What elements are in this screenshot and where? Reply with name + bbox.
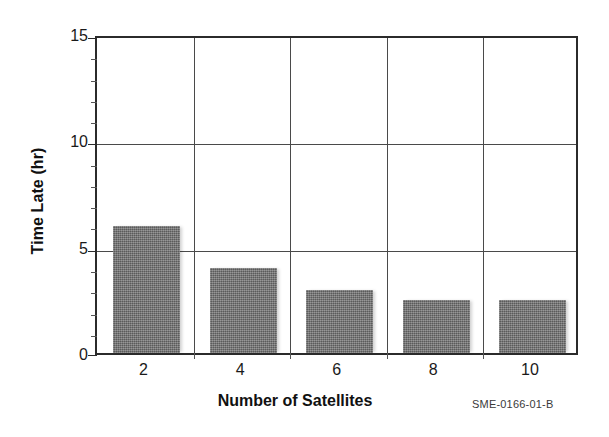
x-tick-label-8: 8 xyxy=(391,362,476,378)
bar-2[interactable] xyxy=(113,226,180,353)
gridline-x-1 xyxy=(194,38,195,353)
bar-8[interactable] xyxy=(403,300,470,353)
tick-minor-y-1 xyxy=(91,336,97,337)
bar-4[interactable] xyxy=(210,268,277,353)
bar-6[interactable] xyxy=(306,290,373,353)
tick-minor-y-2 xyxy=(91,315,97,316)
tick-minor-y-3 xyxy=(91,293,97,294)
figure-id-label: SME-0166-01-B xyxy=(472,398,553,410)
gridline-y-10 xyxy=(97,144,576,145)
tick-minor-y-6 xyxy=(91,229,97,230)
y-axis-tick-labels: 15 10 5 0 xyxy=(54,0,88,437)
x-axis-tick-labels: 2 4 6 8 10 xyxy=(95,362,578,388)
y-tick-label-10: 10 xyxy=(54,134,88,150)
tick-minor-x-1 xyxy=(194,353,195,359)
tick-minor-y-8 xyxy=(91,187,97,188)
y-tick-label-0: 0 xyxy=(54,347,88,363)
gridline-x-2 xyxy=(290,38,291,353)
x-tick-label-2: 2 xyxy=(101,362,186,378)
tick-minor-x-4 xyxy=(483,353,484,359)
y-tick-label-5: 5 xyxy=(54,241,88,257)
gridline-x-3 xyxy=(387,38,388,353)
x-tick-label-6: 6 xyxy=(294,362,379,378)
x-axis-title: Number of Satellites xyxy=(95,392,495,410)
plot-area xyxy=(95,36,578,355)
tick-major-y-15 xyxy=(88,38,97,39)
tick-major-y-0 xyxy=(88,355,97,356)
tick-major-y-5 xyxy=(88,251,97,252)
bar-chart-figure: Time Late (hr) 15 10 5 0 xyxy=(0,0,609,254)
bar-10[interactable] xyxy=(499,300,566,353)
tick-minor-x-3 xyxy=(387,353,388,359)
x-tick-label-10: 10 xyxy=(487,362,572,378)
tick-minor-x-2 xyxy=(290,353,291,359)
gridline-x-4 xyxy=(483,38,484,353)
tick-minor-y-14 xyxy=(91,59,97,60)
tick-minor-y-9 xyxy=(91,166,97,167)
tick-minor-y-13 xyxy=(91,81,97,82)
tick-minor-y-7 xyxy=(91,208,97,209)
y-axis-title: Time Late (hr) xyxy=(29,101,47,301)
tick-minor-y-4 xyxy=(91,272,97,273)
x-tick-label-4: 4 xyxy=(198,362,283,378)
tick-major-y-10 xyxy=(88,144,97,145)
tick-minor-y-12 xyxy=(91,102,97,103)
tick-minor-y-11 xyxy=(91,123,97,124)
y-tick-label-15: 15 xyxy=(54,28,88,44)
